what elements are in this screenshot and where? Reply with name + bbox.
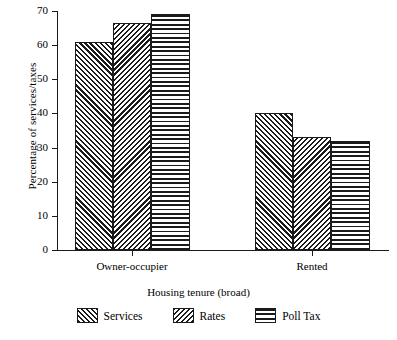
y-tick-label-0: 0	[43, 243, 49, 255]
legend-label-services: Services	[104, 310, 143, 322]
y-tick-50: 50	[52, 79, 58, 80]
y-tick-label-30: 30	[37, 141, 48, 153]
y-tick-label-20: 20	[37, 175, 48, 187]
bar-owner-occupier-rates	[113, 23, 151, 250]
x-tick-rented	[312, 250, 313, 256]
bar-rented-poll-tax	[331, 141, 370, 250]
legend-item-poll-tax: Poll Tax	[255, 308, 320, 323]
bar-chart-figure: Percentage of services/taxes 70 60 50 40…	[0, 0, 397, 340]
bar-rented-rates	[293, 137, 331, 250]
y-tick-label-40: 40	[37, 106, 48, 118]
y-tick-40: 40	[52, 113, 58, 114]
legend-label-rates: Rates	[200, 310, 226, 322]
legend-swatch-services-icon	[77, 308, 98, 323]
x-axis-title: Housing tenure (broad)	[0, 286, 397, 298]
bar-rented-services	[255, 113, 293, 250]
legend-label-poll-tax: Poll Tax	[282, 310, 320, 322]
y-tick-label-60: 60	[37, 38, 48, 50]
y-tick-20: 20	[52, 182, 58, 183]
chart-legend: Services Rates Poll Tax	[0, 308, 397, 323]
y-tick-30: 30	[52, 148, 58, 149]
y-tick-label-10: 10	[37, 209, 48, 221]
y-tick-label-50: 50	[37, 72, 48, 84]
legend-item-services: Services	[77, 308, 143, 323]
y-tick-10: 10	[52, 216, 58, 217]
x-tick-label-owner-occupier: Owner-occupier	[96, 260, 167, 272]
x-tick-owner-occupier	[132, 250, 133, 256]
plot-area: 70 60 50 40 30 20 10 0	[57, 11, 389, 250]
legend-swatch-rates-icon	[173, 308, 194, 323]
y-tick-60: 60	[52, 45, 58, 46]
bar-owner-occupier-services	[75, 42, 113, 250]
x-axis-line	[57, 250, 389, 251]
bar-owner-occupier-poll-tax	[151, 14, 190, 250]
y-tick-label-70: 70	[37, 4, 48, 16]
legend-item-rates: Rates	[173, 308, 226, 323]
x-tick-label-rented: Rented	[296, 260, 327, 272]
y-tick-70: 70	[52, 11, 58, 12]
y-tick-0: 0	[52, 250, 58, 251]
legend-swatch-poll-tax-icon	[255, 308, 276, 323]
